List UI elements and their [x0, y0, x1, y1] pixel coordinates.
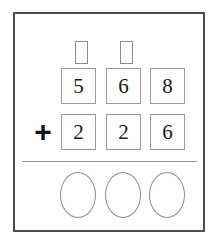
answer-oval-hundreds[interactable]	[60, 172, 96, 218]
addend2-digit-hundreds: 2	[61, 114, 96, 150]
addend1-digit-tens: 6	[106, 68, 141, 104]
addend1-digit-ones: 8	[150, 68, 185, 104]
answer-oval-tens[interactable]	[105, 172, 141, 218]
sum-rule-divider	[22, 161, 197, 162]
carry-box-hundreds[interactable]	[75, 41, 88, 64]
addend2-digit-tens: 2	[106, 114, 141, 150]
answer-oval-ones[interactable]	[149, 172, 185, 218]
addend2-digit-ones: 6	[150, 114, 185, 150]
plus-operator-icon: +	[28, 114, 58, 150]
addend1-digit-hundreds: 5	[61, 68, 96, 104]
carry-box-tens[interactable]	[120, 41, 133, 64]
worksheet-frame: 5 6 8 + 2 2 6	[13, 12, 205, 232]
